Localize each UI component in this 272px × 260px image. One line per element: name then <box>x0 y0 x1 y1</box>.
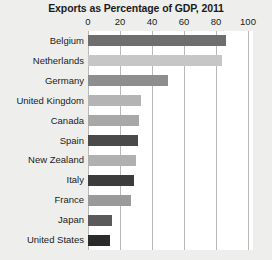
y-label-canada: Canada <box>51 111 84 131</box>
y-label-italy: Italy <box>67 170 84 190</box>
x-tick-label-0: 0 <box>85 16 90 27</box>
y-label-spain: Spain <box>60 131 84 151</box>
plot-area <box>88 31 253 250</box>
y-label-united-kingdom: United Kingdom <box>16 91 84 111</box>
bar-germany <box>88 75 168 86</box>
bar-united-kingdom <box>88 95 141 106</box>
bar-united-states <box>88 235 110 246</box>
bar-new-zealand <box>88 155 136 166</box>
x-tick-label-80: 80 <box>211 16 222 27</box>
bar-france <box>88 195 131 206</box>
bar-belgium <box>88 35 226 46</box>
chart-title: Exports as Percentage of GDP, 2011 <box>0 2 272 14</box>
y-label-belgium: Belgium <box>50 31 84 51</box>
bar-series <box>88 31 253 250</box>
x-tick-label-100: 100 <box>240 16 256 27</box>
bar-netherlands <box>88 55 222 66</box>
y-label-netherlands: Netherlands <box>33 51 84 71</box>
x-tick-label-20: 20 <box>115 16 126 27</box>
x-axis-tick-labels: 020406080100 <box>88 16 248 30</box>
bar-italy <box>88 175 134 186</box>
bar-japan <box>88 215 112 226</box>
x-tick-label-40: 40 <box>147 16 158 27</box>
exports-gdp-bar-chart: Exports as Percentage of GDP, 2011 02040… <box>0 0 272 260</box>
x-tick-label-60: 60 <box>179 16 190 27</box>
y-label-germany: Germany <box>45 71 84 91</box>
bar-canada <box>88 115 139 126</box>
y-label-united-states: United States <box>27 230 84 250</box>
bar-spain <box>88 135 138 146</box>
y-axis-category-labels: BelgiumNetherlandsGermanyUnited KingdomC… <box>0 31 84 250</box>
y-label-japan: Japan <box>58 210 84 230</box>
y-label-new-zealand: New Zealand <box>28 150 84 170</box>
y-label-france: France <box>54 190 84 210</box>
